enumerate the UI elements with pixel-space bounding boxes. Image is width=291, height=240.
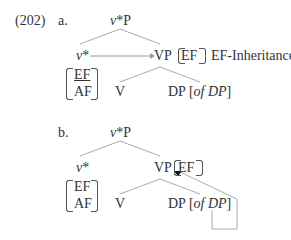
a-vp-node: VP <box>154 48 172 64</box>
a-vp-bracket-right <box>199 48 206 64</box>
b-feature-af: AF <box>74 196 92 212</box>
a-vp-feature: EF <box>181 48 197 64</box>
b-v-node: V <box>115 196 125 212</box>
a-root-node: v*P <box>110 13 131 29</box>
a-annotation: EF-Inheritance <box>211 48 291 64</box>
b-root-node: v*P <box>110 125 131 141</box>
b-vp-bracket-right <box>196 160 203 176</box>
a-feature-bracket-right <box>91 68 98 100</box>
a-feature-ef: EF <box>74 67 90 83</box>
a-feature-bracket-left <box>66 68 73 100</box>
label-a: a. <box>58 13 68 29</box>
b-feature-bracket-right <box>91 180 98 212</box>
b-feature-bracket-left <box>66 180 73 212</box>
a-dp-node: DP [of DP] <box>168 84 231 100</box>
a-v-node: V <box>115 84 125 100</box>
b-vp-feature: EF <box>178 160 194 176</box>
a-feature-af: AF <box>74 84 92 100</box>
label-b: b. <box>58 125 69 141</box>
b-v-star-node: v* <box>76 160 89 176</box>
a-v-star-node: v* <box>76 48 89 64</box>
tree-lines <box>0 0 291 240</box>
b-vp-node: VP <box>154 160 172 176</box>
example-number: (202) <box>15 13 45 29</box>
b-feature-ef: EF <box>74 179 90 195</box>
b-dp-node: DP [of DP] <box>168 196 231 212</box>
